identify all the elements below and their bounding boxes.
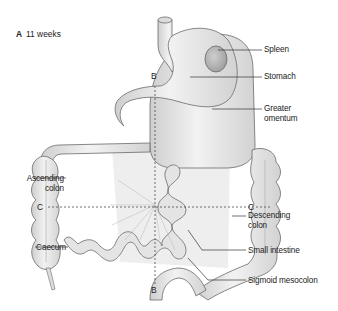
label-spleen: Spleen: [264, 45, 289, 55]
label-greater-omentum: Greater omentum: [264, 104, 297, 123]
label-stomach: Stomach: [264, 72, 296, 82]
label-sigmoid-mesocolon: Sigmoid mesocolon: [248, 276, 318, 286]
label-greater-omentum-line2: omentum: [264, 114, 297, 124]
label-ascending-colon: Ascending colon: [0, 174, 64, 193]
section-label-b-bottom: B: [151, 285, 157, 295]
label-descending-colon-line1: Descending: [248, 211, 290, 221]
section-label-c-left: C: [37, 202, 43, 212]
label-descending-colon: Descending colon: [248, 211, 290, 230]
esophagus-opening: [158, 17, 172, 23]
label-ascending-colon-line1: Ascending: [0, 174, 64, 184]
label-caecum: Caecum: [0, 243, 66, 253]
appendix-shape: [46, 268, 55, 290]
panel-letter: A: [16, 29, 22, 39]
panel-age: 11 weeks: [26, 29, 61, 39]
label-greater-omentum-line1: Greater: [264, 104, 297, 114]
sigmoid-colon-shape: [150, 268, 206, 300]
label-descending-colon-line2: colon: [248, 221, 290, 231]
section-label-b-top: B: [151, 71, 157, 81]
embryonic-gut-diagram: A11 weeks B B C C Spleen Stomach Greater…: [0, 0, 338, 311]
label-small-intestine: Small intestine: [248, 246, 300, 256]
label-ascending-colon-line2: colon: [0, 184, 64, 194]
panel-title: A11 weeks: [16, 29, 61, 39]
